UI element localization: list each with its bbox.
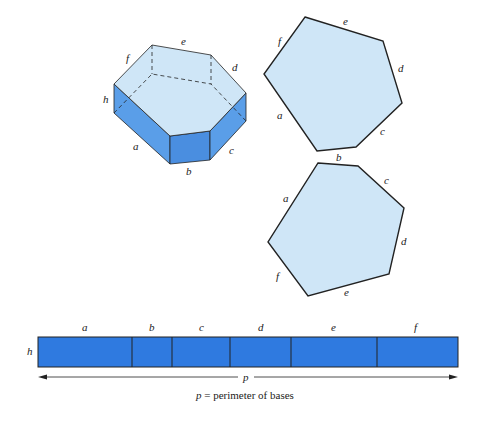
perimeter-caption: p = perimeter of bases	[195, 389, 294, 401]
prism-label-f: f	[126, 52, 131, 64]
prism-label-a: a	[133, 140, 139, 152]
top-base-label-a: a	[277, 109, 283, 121]
caption-text: = perimeter of bases	[202, 389, 294, 401]
arrowhead-right-icon	[449, 375, 458, 380]
bottom-base-label-a: a	[283, 192, 289, 204]
strip-label-f: f	[414, 321, 419, 333]
bottom-base-hexagon: b c a d f e	[268, 151, 407, 298]
strip-label-a: a	[82, 321, 88, 333]
prism-label-d: d	[232, 61, 238, 73]
lateral-surface-strip: a b c d e f h p p = perimeter of bases	[27, 321, 458, 401]
strip-label-h: h	[27, 345, 33, 357]
strip-label-d: d	[258, 321, 264, 333]
bottom-base-label-f: f	[276, 270, 281, 282]
arrowhead-left-icon	[38, 375, 47, 380]
prism-label-h: h	[103, 93, 109, 105]
strip-label-c: c	[199, 321, 204, 333]
bottom-base-label-d: d	[401, 235, 407, 247]
top-base-label-e: e	[343, 15, 348, 27]
prism-label-b: b	[186, 165, 192, 177]
top-base-label-c: c	[380, 125, 385, 137]
top-base-hexagon: e f d a c	[264, 15, 404, 151]
prism-label-c: c	[229, 144, 234, 156]
strip-label-b: b	[149, 321, 155, 333]
bottom-base-label-b: b	[336, 151, 342, 163]
bottom-base-label-e: e	[344, 286, 349, 298]
diagram-canvas: e f d h a c b e f d a c b c a d f e a b …	[0, 0, 480, 424]
strip-label-e: e	[331, 321, 336, 333]
hexagonal-prism: e f d h a c b	[103, 35, 246, 177]
bottom-base-label-c: c	[384, 174, 389, 186]
prism-label-e: e	[181, 35, 186, 47]
top-base-label-d: d	[398, 62, 404, 74]
top-base-label-f: f	[278, 35, 283, 47]
prism-face-b	[170, 131, 210, 164]
strip-rectangle	[38, 337, 458, 367]
perimeter-label-p: p	[242, 371, 249, 383]
